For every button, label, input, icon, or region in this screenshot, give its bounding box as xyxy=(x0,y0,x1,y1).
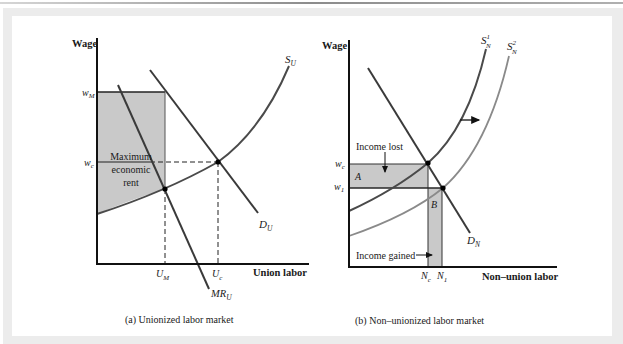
caption-b: (b) Non–unionized labor market xyxy=(355,315,484,327)
rent-label-line2: economic xyxy=(112,164,151,175)
tick-wc-b: wc xyxy=(335,158,346,171)
label-su: SU xyxy=(285,53,297,68)
x-axis-label-a: Union labor xyxy=(253,267,307,278)
tick-w1: w1 xyxy=(334,181,344,194)
equilibrium-point-wc xyxy=(425,160,430,165)
panel-b-non-unionized: Wage Non–union labor (b) Non–unionized l… xyxy=(322,33,558,327)
equilibrium-point-c xyxy=(215,159,220,164)
income-gained-label: Income gained xyxy=(356,250,415,261)
label-mr: MRU xyxy=(210,288,232,302)
tick-n1: N1 xyxy=(436,270,447,284)
equilibrium-point-w1 xyxy=(440,185,445,190)
y-axis-label-a: Wage xyxy=(72,38,97,49)
tick-nc: Nc xyxy=(420,270,432,284)
tick-wc-a: wc xyxy=(84,157,95,170)
area-a-label: A xyxy=(354,171,362,182)
label-sn2: S2N xyxy=(507,39,517,56)
panel-a-unionized: Wage Union labor (a) Unionized labor mar… xyxy=(72,38,309,326)
label-dn: DN xyxy=(466,234,481,249)
tick-wm: wM xyxy=(82,87,96,100)
tick-uc: Uc xyxy=(212,268,223,282)
label-du: DU xyxy=(258,218,273,233)
area-b-label: B xyxy=(431,199,437,210)
label-sn1: S1N xyxy=(481,33,491,50)
rent-label-line3: rent xyxy=(123,177,139,188)
tick-um: UM xyxy=(156,268,170,282)
income-lost-label: Income lost xyxy=(356,141,403,152)
caption-a: (a) Unionized labor market xyxy=(125,314,234,326)
rent-label-line1: Maximum xyxy=(110,151,152,162)
monopoly-point-m xyxy=(162,186,167,191)
labor-market-diagram: Wage Union labor (a) Unionized labor mar… xyxy=(0,0,623,344)
x-axis-label-b: Non–union labor xyxy=(482,271,558,282)
y-axis-label-b: Wage xyxy=(322,40,347,51)
